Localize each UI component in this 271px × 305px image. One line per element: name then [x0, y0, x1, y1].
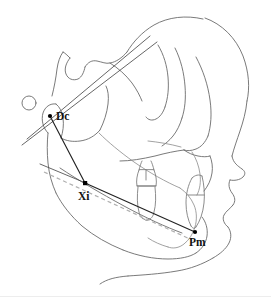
sigmoid-notch-outline: [61, 130, 100, 141]
upper-molar-cusp-right: [151, 161, 154, 170]
chin-soft-outline: [213, 227, 231, 258]
cranial-vault-outline: [127, 17, 203, 52]
lower-lip-outline: [223, 205, 233, 227]
upper-lip-outline: [229, 180, 235, 205]
xi-pm-measure-line: [85, 183, 195, 232]
upper-molar-root-mesial: [137, 187, 144, 219]
orbit-floor-outline: [146, 107, 165, 120]
nasal-bridge-outline: [232, 101, 247, 156]
hard-palate-line: [120, 150, 184, 161]
cranial-outline-group: [52, 17, 203, 101]
forehead-outline: [205, 18, 249, 101]
xi-landmark-label: Xi: [78, 190, 90, 202]
teeth-group: [137, 161, 205, 228]
maxilla-group: [120, 45, 212, 195]
lingual-symphysis-line: [180, 188, 196, 227]
maxilla-anterior-wall: [192, 152, 200, 195]
cephalometric-figure: Dc Xi Pm: [0, 0, 271, 305]
basion-region: [110, 63, 142, 101]
orbital-rim-outline: [158, 45, 168, 107]
posterior-nasal-spine-region: [204, 156, 212, 191]
ans-outline: [196, 57, 211, 136]
landmark-pm-group: Pm: [189, 230, 206, 248]
ba-n-plane-line: [22, 42, 157, 145]
pm-landmark-label: Pm: [189, 236, 206, 248]
cranial-base-reference-line: [27, 36, 150, 139]
antegonial-notch-line: [148, 238, 168, 247]
palate-superior: [184, 136, 208, 151]
maxillary-sinus-outline: [162, 118, 182, 146]
xi-landmark-dot: [83, 181, 87, 185]
anterior-cranial-base: [85, 52, 127, 67]
posterior-ramus-border: [47, 133, 56, 193]
porion-marker-circle: [22, 96, 36, 110]
coronoid-process-outline: [100, 86, 108, 130]
bottom-divider: [0, 296, 271, 297]
soft-tissue-profile-group: [100, 18, 249, 284]
dc-landmark-label: Dc: [56, 110, 69, 122]
nose-tip-outline: [230, 156, 245, 180]
dc-landmark-dot: [48, 114, 52, 118]
landmark-dc-group: Dc: [48, 110, 70, 122]
pm-landmark-dot: [193, 230, 197, 234]
condyle-head-outline: [42, 104, 56, 133]
cephalometric-tracing-svg: Dc Xi Pm: [0, 0, 271, 305]
cranial-base-posterior: [63, 52, 70, 58]
gonial-angle-outline: [56, 193, 123, 250]
occipital-outline: [52, 52, 63, 96]
submental-outline: [128, 258, 213, 276]
occlusal-plane-dashed-line: [44, 172, 192, 240]
pterygomaxillary-outline: [175, 48, 185, 118]
lower-incisor-crown: [186, 178, 192, 226]
measurement-lines-group: [50, 116, 195, 232]
upper-molar-crown: [137, 170, 157, 186]
mandibular-body-lower: [123, 250, 196, 259]
sella-turcica-outline: [65, 58, 85, 80]
neck-outline: [100, 276, 128, 284]
